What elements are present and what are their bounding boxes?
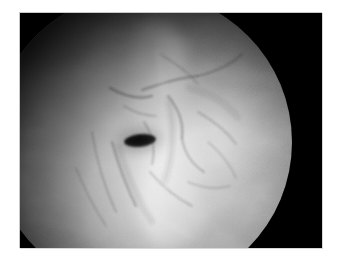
film-grain-layer [20,13,292,248]
vessel-svg [20,13,292,248]
mucosa-texture-svg [20,13,292,248]
mucosa-texture-layer [20,13,292,248]
endoscopic-field-of-view [20,13,292,248]
lumen-opening [123,132,156,148]
highlight-patch-lower [84,160,204,248]
photograph-frame [20,13,322,248]
vessel-and-crease-layer [20,13,292,248]
highlight-patch-right [188,88,272,184]
image-canvas [0,0,341,264]
grain-svg [20,13,292,248]
vignette-overlay [20,13,292,248]
